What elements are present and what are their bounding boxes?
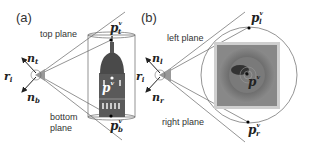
n-right-label: nr bbox=[152, 91, 165, 105]
top-plane-label: top plane bbox=[40, 29, 77, 39]
n-left-label: nl bbox=[152, 52, 163, 66]
panel-a: (a) bbox=[4, 10, 135, 140]
p-left-label: pvl bbox=[251, 9, 263, 26]
bottom-plane-label-1: bottom bbox=[50, 112, 78, 122]
n-top-label: nt bbox=[27, 52, 39, 66]
p-bottom-label: pvb bbox=[110, 117, 123, 134]
bottom-plane-label-2: plane bbox=[50, 123, 72, 133]
point-bottom bbox=[109, 114, 112, 117]
point-left bbox=[247, 26, 250, 29]
p-right-label: pvr bbox=[248, 121, 261, 138]
left-plane-label: left plane bbox=[167, 33, 204, 43]
frustum-diagram: (a) bbox=[0, 0, 309, 151]
r-label-a: ri bbox=[4, 70, 13, 84]
right-plane-label: right plane bbox=[162, 117, 204, 127]
panel-b-label: (b) bbox=[141, 10, 157, 25]
panel-a-label: (a) bbox=[16, 10, 32, 25]
r-label-b: ri bbox=[136, 70, 145, 84]
panel-b: (b) left plane right plane bbox=[136, 9, 297, 142]
p-top-label: pvt bbox=[110, 19, 122, 36]
camera-apex-a bbox=[35, 69, 45, 81]
point-top bbox=[109, 38, 112, 41]
n-bottom-label: nb bbox=[27, 91, 40, 105]
